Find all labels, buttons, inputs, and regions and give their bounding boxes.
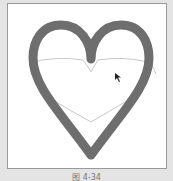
heart-drawing bbox=[8, 4, 168, 170]
figure-caption: 图 4-34 bbox=[0, 174, 173, 181]
arrow-cursor-icon bbox=[115, 73, 121, 82]
heart-outline bbox=[33, 25, 149, 155]
drawing-canvas[interactable] bbox=[7, 3, 167, 169]
